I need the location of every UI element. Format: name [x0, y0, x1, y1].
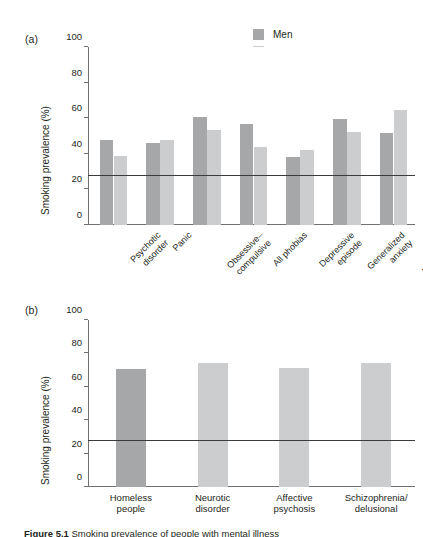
panel-b-category-label: Schizophrenia/delusional — [345, 492, 408, 514]
panel-a-category-label: All phobias — [270, 230, 309, 269]
caption-body: Smoking prevalence of people with mental… — [69, 528, 279, 537]
panel-a-bar-women — [207, 130, 221, 225]
panel-a-category-label: Mixed anxietyand depressive — [416, 230, 423, 288]
panel-b-y-tick-label: 60 — [71, 370, 82, 381]
panel-b-bar — [361, 363, 391, 487]
panel-a-y-tick-label: 80 — [71, 66, 82, 77]
panel-a-bar-men — [333, 119, 347, 225]
panel-b-y-tick — [84, 319, 88, 320]
panel-b-y-tick — [84, 486, 88, 487]
panel-a-y-tick-label: 0 — [77, 209, 82, 220]
panel-a-bar-women — [300, 150, 314, 225]
panel-a-bar-men — [286, 157, 300, 225]
panel-b-y-tick — [84, 352, 88, 353]
panel-a-bar-women — [114, 156, 128, 225]
panel-b-y-tick-label: 100 — [66, 304, 82, 315]
panel-b-plot-area: 020406080100 HomelesspeopleNeuroticdisor… — [88, 320, 415, 487]
panel-b: (b) General population Smoking prevalenc… — [0, 290, 423, 520]
panel-b-y-tick — [84, 419, 88, 420]
panel-a-category-label: Obsessive–compulsive — [225, 230, 273, 278]
panel-b-y-tick — [84, 386, 88, 387]
panel-a-y-tick-label: 60 — [71, 102, 82, 113]
panel-a-y-tick-label: 40 — [71, 137, 82, 148]
panel-a-bar-women — [347, 132, 361, 225]
panel-b-y-tick-label: 20 — [71, 437, 82, 448]
panel-a-y-tick — [84, 153, 88, 154]
panel-a-y-tick — [84, 188, 88, 189]
panel-a-bar-men — [193, 117, 207, 225]
panel-b-y-tick-label: 80 — [71, 337, 82, 348]
panel-a-letter: (a) — [25, 33, 38, 45]
panel-b-y-axis — [88, 320, 89, 487]
panel-b-y-axis-title: Smoking prevalence (%) — [40, 376, 51, 485]
panel-b-y-tick-label: 0 — [77, 471, 82, 482]
panel-a-y-tick — [84, 82, 88, 83]
legend-label-men: Men — [273, 29, 292, 40]
panel-b-letter: (b) — [25, 304, 38, 316]
panel-b-bar — [198, 363, 228, 487]
panel-b-bar — [279, 368, 309, 487]
panel-a-y-tick — [84, 224, 88, 225]
panel-a-bar-men — [100, 140, 114, 225]
panel-a-category-label: Generalizedanxiety — [365, 230, 414, 279]
panel-a-bar-women — [160, 140, 174, 225]
panel-a-bar-men — [380, 133, 394, 225]
panel-a-category-label: Panic — [171, 230, 194, 253]
panel-a-general-population-line — [88, 175, 415, 176]
panel-b-category-label: Neuroticdisorder — [195, 492, 230, 514]
panel-a-y-tick — [84, 117, 88, 118]
panel-b-general-population-line — [88, 440, 415, 441]
panel-a-bar-women — [254, 147, 268, 225]
panel-a-y-axis-title: Smoking prevalence (%) — [40, 106, 51, 215]
panel-a-y-tick — [84, 46, 88, 47]
panel-a-bar-women — [394, 110, 408, 225]
panel-a-category-label: Depressiveepisode — [317, 230, 364, 277]
panel-a-category-label: Psychoticdisorder — [129, 230, 171, 272]
panel-b-bar — [116, 369, 146, 487]
panel-b-category-label: Affectivepsychosis — [274, 492, 316, 514]
figure-container: (a) Men Women General population Smoking… — [0, 0, 423, 537]
panel-a-y-tick-label: 100 — [66, 31, 82, 42]
panel-b-category-label: Homelesspeople — [110, 492, 152, 514]
legend-item-men: Men — [253, 27, 367, 42]
panel-b-y-tick — [84, 453, 88, 454]
men-swatch-icon — [253, 29, 264, 40]
caption-label: Figure 5.1 — [24, 528, 69, 537]
panel-a-bar-men — [146, 143, 160, 225]
panel-a-y-axis — [88, 47, 89, 225]
figure-caption: Figure 5.1 Smoking prevalence of people … — [24, 528, 402, 537]
panel-a: (a) Men Women General population Smoking… — [0, 0, 423, 290]
panel-b-y-tick-label: 40 — [71, 404, 82, 415]
panel-a-y-tick-label: 20 — [71, 173, 82, 184]
panel-a-plot-area: 020406080100 PsychoticdisorderPanicObses… — [88, 47, 415, 225]
